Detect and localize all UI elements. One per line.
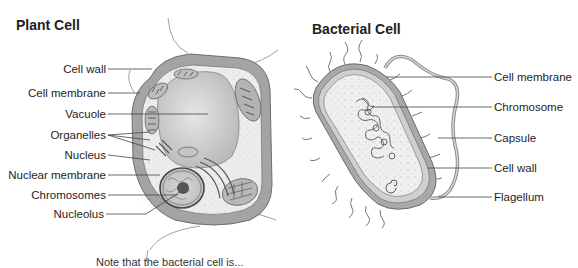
label-organelles: Organelles: [50, 128, 106, 142]
vacuole: [158, 72, 240, 168]
plant-cell-illustration: [129, 18, 278, 262]
label-cell-wall: Cell wall: [63, 62, 106, 76]
label-nuclear-membrane: Nuclear membrane: [8, 168, 106, 182]
label-nucleus: Nucleus: [64, 148, 106, 162]
label-bacterial-chromosome: Chromosome: [494, 100, 563, 114]
bacterial-cell-illustration: [294, 40, 458, 228]
nucleolus: [177, 182, 189, 194]
label-nucleolus: Nucleolus: [54, 207, 105, 221]
label-bacterial-flagellum: Flagellum: [494, 190, 544, 204]
label-bacterial-capsule: Capsule: [494, 131, 536, 145]
label-vacuole: Vacuole: [65, 107, 106, 121]
label-bacterial-cell-wall: Cell wall: [494, 161, 537, 175]
label-chromosomes: Chromosomes: [31, 188, 106, 202]
bacterial-cell-title: Bacterial Cell: [312, 21, 401, 37]
label-cell-membrane: Cell membrane: [28, 86, 106, 100]
label-bacterial-cell-membrane: Cell membrane: [494, 70, 572, 84]
plant-cell-title: Plant Cell: [16, 17, 80, 33]
footnote: Note that the bacterial cell is...: [96, 256, 243, 268]
